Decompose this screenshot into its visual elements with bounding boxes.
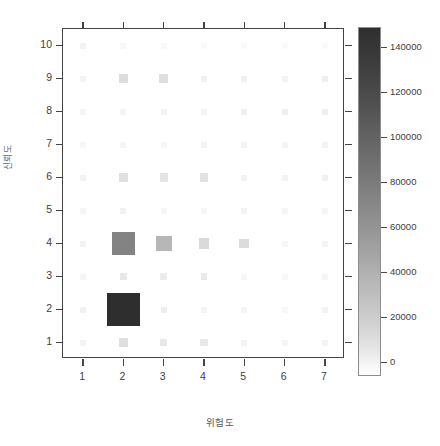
x-tick-label: 4 <box>191 370 215 382</box>
heatmap-cell <box>161 307 167 313</box>
colorbar-tick <box>381 272 387 273</box>
heatmap-cell <box>120 208 126 214</box>
heatmap-cell <box>161 142 167 148</box>
colorbar-tick <box>381 92 387 93</box>
heatmap-cell <box>200 339 207 346</box>
heatmap-cell <box>80 241 86 247</box>
y-tick-label: 7 <box>28 137 52 149</box>
y-axis-tick <box>56 45 63 46</box>
colorbar-tick-label: 80000 <box>390 176 416 187</box>
heatmap-cell <box>282 142 288 148</box>
x-tick-label: 2 <box>110 370 134 382</box>
heatmap-cell <box>120 109 126 115</box>
x-axis-tick-top <box>244 22 245 29</box>
y-tick-label: 6 <box>28 170 52 182</box>
heatmap-cell <box>201 43 207 49</box>
colorbar-tick <box>381 227 387 228</box>
heatmap-cell <box>322 307 328 313</box>
x-axis-tick-top <box>324 22 325 29</box>
heatmap-cell <box>241 340 247 346</box>
y-tick-label: 3 <box>28 269 52 281</box>
heatmap-cell <box>119 74 129 84</box>
heatmap-cell <box>239 239 249 249</box>
colorbar-tick-label: 20000 <box>390 311 416 322</box>
heatmap-cell <box>201 109 207 115</box>
heatmap-cell <box>322 76 328 82</box>
heatmap-cell <box>201 307 207 313</box>
heatmap-cell <box>161 109 167 115</box>
y-axis-tick <box>56 177 63 178</box>
heatmap-cell <box>322 274 328 280</box>
x-axis-title: 위험도 <box>0 415 440 429</box>
heatmap-cell <box>80 175 86 181</box>
heatmap-cell <box>201 273 208 280</box>
heatmap-cell <box>161 43 167 49</box>
x-axis-tick <box>244 359 245 366</box>
y-axis-tick-right <box>345 144 352 145</box>
y-axis-tick <box>56 210 63 211</box>
heatmap-cell <box>80 307 86 313</box>
colorbar-tick <box>381 362 387 363</box>
heatmap-cell <box>80 43 86 49</box>
y-tick-label: 1 <box>28 335 52 347</box>
heatmap-cell <box>201 208 207 214</box>
heatmap-cell <box>282 43 288 49</box>
colorbar-tick-label: 120000 <box>390 86 422 97</box>
plot-area <box>62 28 344 358</box>
heatmap-cell <box>241 274 247 280</box>
heatmap-cell <box>200 173 209 182</box>
y-axis-tick-right <box>345 210 352 211</box>
heatmap-cell <box>160 173 168 181</box>
colorbar-tick-label: 140000 <box>390 41 422 52</box>
heatmap-cell <box>241 142 247 148</box>
heatmap-cell <box>282 76 288 82</box>
heatmap-cell <box>322 208 328 214</box>
heatmap-cell <box>322 175 328 181</box>
colorbar-tick-label: 60000 <box>390 221 416 232</box>
x-tick-label: 6 <box>272 370 296 382</box>
heatmap-cell <box>112 232 135 255</box>
heatmap-cell <box>199 238 209 248</box>
y-axis-title: 신뢰도 <box>1 145 14 171</box>
heatmap-cell <box>322 43 328 49</box>
x-axis-tick <box>163 359 164 366</box>
heatmap-cell <box>80 274 86 280</box>
y-axis-tick-right <box>345 342 352 343</box>
y-tick-label: 8 <box>28 104 52 116</box>
y-axis-tick-right <box>345 243 352 244</box>
y-axis-tick <box>56 243 63 244</box>
heatmap-cell <box>282 175 288 181</box>
colorbar-tick <box>381 47 387 48</box>
y-axis-tick-right <box>345 78 352 79</box>
x-axis-tick-top <box>284 22 285 29</box>
heatmap-cell <box>322 340 328 346</box>
heatmap-cell <box>241 76 247 82</box>
heatmap-cell <box>282 109 288 115</box>
heatmap-cell <box>119 173 128 182</box>
heatmap-cell <box>201 76 207 82</box>
heatmap-figure: 신뢰도 10987654321 1234567 위험도 140000120000… <box>0 0 440 446</box>
heatmap-cell <box>282 274 288 280</box>
heatmap-cell <box>80 142 86 148</box>
y-axis-tick-right <box>345 177 352 178</box>
y-axis-tick <box>56 78 63 79</box>
heatmap-cell <box>80 208 86 214</box>
heatmap-cell <box>159 74 168 83</box>
x-axis-tick <box>284 359 285 366</box>
colorbar-tick-label: 40000 <box>390 266 416 277</box>
y-axis-tick <box>56 276 63 277</box>
heatmap-cell <box>119 338 128 347</box>
heatmap-cell <box>160 273 167 280</box>
colorbar-tick-label: 100000 <box>390 131 422 142</box>
y-axis-tick <box>56 111 63 112</box>
heatmap-cell <box>160 339 167 346</box>
colorbar-gradient <box>358 27 381 376</box>
heatmap-cell <box>241 43 247 49</box>
heatmap-cell <box>322 241 328 247</box>
colorbar-tick-label: 0 <box>390 356 395 367</box>
colorbar-tick <box>381 182 387 183</box>
heatmap-cell <box>241 307 247 313</box>
colorbar-tick <box>381 137 387 138</box>
y-axis-tick-right <box>345 309 352 310</box>
y-tick-label: 5 <box>28 203 52 215</box>
